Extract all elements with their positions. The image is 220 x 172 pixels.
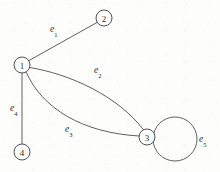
edge-label-e2: e2 xyxy=(94,66,101,76)
graph-figure: 1 2 3 4 e1 e2 e3 e4 e5 xyxy=(0,0,220,172)
vertex-1-label: 1 xyxy=(20,61,25,71)
edge-label-e1-sub: 1 xyxy=(54,31,57,38)
vertex-2-label: 2 xyxy=(102,14,107,24)
edge-e3 xyxy=(26,73,139,137)
vertex-3-label: 3 xyxy=(145,133,150,143)
edge-e2 xyxy=(30,68,144,130)
edge-label-e2-sub: 2 xyxy=(98,72,101,79)
vertex-1: 1 xyxy=(14,57,30,73)
edge-label-e5-sub: 5 xyxy=(203,141,206,148)
edge-e5-loop xyxy=(153,117,197,161)
edge-label-e5: e5 xyxy=(199,135,206,145)
edge-label-e1: e1 xyxy=(50,25,57,35)
vertex-2: 2 xyxy=(96,10,112,26)
vertex-4: 4 xyxy=(14,144,30,160)
edge-e1 xyxy=(29,22,98,60)
edge-label-e3-sub: 3 xyxy=(69,131,72,138)
vertex-3: 3 xyxy=(139,129,155,145)
edge-label-e4-sub: 4 xyxy=(14,110,17,117)
edge-label-e4: e4 xyxy=(10,104,17,114)
graph-canvas: 1 2 3 4 xyxy=(0,0,220,172)
vertex-4-label: 4 xyxy=(20,148,25,158)
edge-label-e3: e3 xyxy=(65,125,72,135)
